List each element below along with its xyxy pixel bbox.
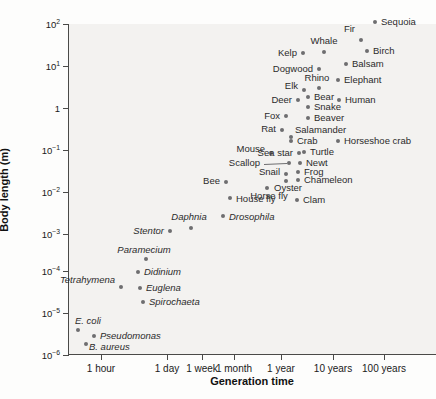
data-point-label: Balsam (352, 59, 384, 69)
data-point-label: Beaver (314, 113, 344, 123)
data-point[interactable] (168, 229, 172, 233)
data-point[interactable] (144, 257, 148, 261)
data-point-label: Paramecium (117, 245, 170, 255)
data-point-label: Rat (261, 124, 276, 134)
data-point[interactable] (84, 342, 88, 346)
data-point-label: Euglena (146, 283, 181, 293)
data-point-label: Spirochaeta (149, 297, 200, 307)
x-tick-label: 10 years (314, 363, 352, 374)
data-point-label: Salamander (295, 125, 346, 135)
y-tick-mark (63, 66, 69, 67)
x-tick-label: 1 year (267, 363, 295, 374)
leader-line (264, 163, 287, 165)
data-point-label: Clam (303, 195, 325, 205)
data-point[interactable] (221, 214, 225, 218)
data-point-label: Turtle (310, 147, 334, 157)
data-point[interactable] (295, 198, 299, 202)
data-point[interactable] (289, 139, 293, 143)
y-tick-mark (63, 108, 69, 109)
data-point[interactable] (373, 20, 377, 24)
data-point[interactable] (336, 139, 340, 143)
plot-area: 102101110−110−210−310−410−510−6 1 hour1 … (68, 24, 436, 355)
data-point[interactable] (119, 285, 123, 289)
data-point-label: Drosophila (229, 212, 274, 222)
y-tick-mark (63, 150, 69, 151)
x-tick-mark (101, 354, 102, 360)
data-point-label: Tetrahymena (60, 275, 115, 285)
data-point[interactable] (280, 128, 284, 132)
y-tick-label: 101 (46, 60, 60, 72)
y-tick-label: 10−3 (42, 228, 60, 240)
data-point-label: E. coli (75, 316, 101, 326)
data-point-label: Fir (344, 24, 355, 34)
x-tick-label: 1 day (155, 363, 179, 374)
data-point[interactable] (306, 105, 310, 109)
data-point[interactable] (296, 98, 300, 102)
data-point[interactable] (302, 150, 306, 154)
y-tick-mark (63, 24, 69, 25)
data-point[interactable] (228, 196, 232, 200)
y-tick-mark (63, 355, 69, 356)
y-tick-label: 10−2 (42, 186, 60, 198)
y-tick-mark (63, 192, 69, 193)
data-point-label: Chameleon (304, 175, 353, 185)
x-tick-label: 1 month (216, 363, 252, 374)
y-tick-label: 102 (46, 18, 60, 30)
data-point[interactable] (284, 114, 288, 118)
data-point-label: Elk (285, 81, 298, 91)
data-point[interactable] (322, 50, 326, 54)
data-point-label: Horseshoe crab (344, 136, 411, 146)
y-tick-label: 10−6 (42, 349, 60, 361)
data-point-label: Scallop (229, 158, 260, 168)
data-point[interactable] (317, 67, 321, 71)
data-point-label: Stentor (133, 226, 164, 236)
data-point[interactable] (306, 95, 310, 99)
y-tick-label: 10−1 (42, 144, 60, 156)
data-point[interactable] (136, 270, 140, 274)
data-point[interactable] (306, 116, 310, 120)
data-point-label: Snake (314, 102, 341, 112)
data-point-label: Snail (259, 167, 280, 177)
data-point[interactable] (287, 161, 291, 165)
data-point[interactable] (189, 226, 193, 230)
data-point-label: Fox (264, 111, 280, 121)
data-point[interactable] (138, 286, 142, 290)
data-point[interactable] (344, 62, 348, 66)
data-point-label: Pseudomonas (100, 331, 161, 341)
y-axis-label: Body length (m) (0, 148, 10, 232)
data-point-label: Human (345, 95, 376, 105)
data-point[interactable] (297, 151, 301, 155)
y-tick-label: 1 (55, 103, 60, 114)
figure-body-length-vs-generation-time: Body length (m) Generation time 10210111… (0, 0, 436, 399)
data-point-label: Sequoia (381, 17, 416, 27)
data-point-label: Rhino (305, 73, 330, 83)
x-tick-mark (384, 354, 385, 360)
data-point-label: Bee (203, 176, 220, 186)
x-tick-label: 1 hour (87, 363, 115, 374)
data-point-label: House fly (236, 194, 276, 204)
data-point-label: Whale (311, 36, 338, 46)
y-tick-label: 10−4 (42, 265, 60, 277)
data-point-label: Didinium (144, 267, 181, 277)
x-tick-label: 1 week (186, 363, 218, 374)
data-point[interactable] (296, 170, 300, 174)
data-point-label: Crab (297, 136, 318, 146)
data-point[interactable] (224, 180, 228, 184)
x-tick-mark (167, 354, 168, 360)
data-point[interactable] (92, 334, 96, 338)
x-axis-label: Generation time (210, 375, 294, 387)
data-point-label: Elephant (344, 75, 382, 85)
data-point[interactable] (76, 328, 80, 332)
data-point[interactable] (141, 300, 145, 304)
y-tick-mark (63, 271, 69, 272)
data-point[interactable] (317, 86, 321, 90)
data-point[interactable] (302, 88, 306, 92)
data-point[interactable] (365, 49, 369, 53)
data-point[interactable] (301, 51, 305, 55)
data-point[interactable] (336, 78, 340, 82)
data-point-label: Sea star (258, 148, 293, 158)
data-point[interactable] (298, 161, 302, 165)
data-point[interactable] (284, 172, 288, 176)
data-point[interactable] (359, 38, 363, 42)
x-tick-mark (281, 354, 282, 360)
